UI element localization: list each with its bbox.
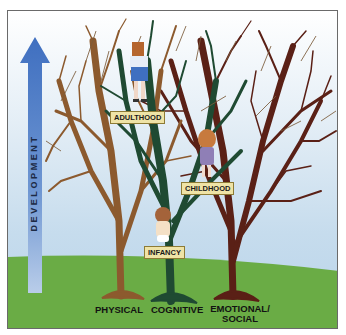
stage-label-infancy: INFANCY xyxy=(144,246,185,259)
development-axis-label: DEVELOPMENT xyxy=(29,134,39,231)
diagram-frame xyxy=(7,10,338,329)
stage-label-adulthood: ADULTHOOD xyxy=(110,111,165,124)
domain-label-physical: PHYSICAL xyxy=(95,305,143,315)
domain-label-line2: SOCIAL xyxy=(208,314,272,324)
adult-figure xyxy=(130,42,148,102)
tree-scene xyxy=(8,11,338,329)
domain-label-emotional-social: EMOTIONAL/ SOCIAL xyxy=(208,304,272,324)
stage-label-childhood: CHILDHOOD xyxy=(181,182,234,195)
domain-label-cognitive: COGNITIVE xyxy=(151,305,203,315)
infant-figure xyxy=(155,207,171,242)
